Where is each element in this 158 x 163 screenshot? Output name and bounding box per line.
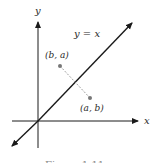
y-axis-label: y	[34, 5, 41, 16]
point-a-b	[88, 96, 92, 100]
point-b-a	[58, 64, 62, 68]
figure-caption: Figure 1.11	[45, 159, 104, 163]
reflection-diagram: y x y = x (b, a) (a, b) Figure 1.11	[0, 0, 158, 163]
point-b-a-label: (b, a)	[45, 50, 69, 60]
point-a-b-label: (a, b)	[80, 103, 104, 113]
x-axis-label: x	[144, 115, 150, 126]
line-y-equals-x-lower	[12, 121, 38, 146]
line-label: y = x	[73, 28, 100, 39]
